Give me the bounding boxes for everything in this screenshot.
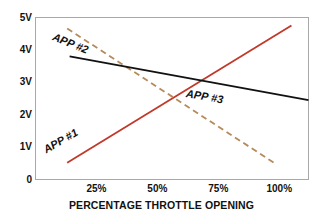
chart-container: 5V4V3V2V1V0 APP #1APP #2APP #3 25%50%75%… [0,0,323,215]
x-tick-label: 75% [196,183,240,194]
x-axis-tick-labels: 25%50%75%100% [0,183,323,197]
x-axis-title: PERCENTAGE THROTTLE OPENING [0,199,323,211]
x-tick-label: 25% [74,183,118,194]
x-tick-label: 100% [257,183,301,194]
x-tick-label: 50% [135,183,179,194]
